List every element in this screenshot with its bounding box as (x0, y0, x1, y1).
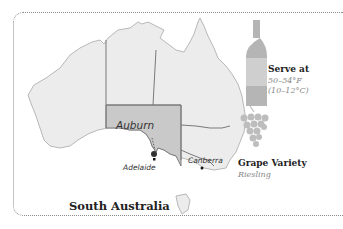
adelaide-marker (153, 158, 156, 161)
grape-heading: Grape Variety (238, 158, 307, 168)
city-label-canberra: Canberra (188, 156, 223, 165)
mainland-outline (28, 18, 246, 170)
city-label-auburn: Auburn (116, 119, 154, 131)
auburn-marker (151, 151, 157, 157)
canberra-marker (201, 167, 204, 170)
map-title: South Australia (69, 199, 170, 213)
serve-heading: Serve at (268, 64, 309, 74)
city-label-adelaide: Adelaide (123, 163, 156, 172)
south-australia-region (106, 105, 181, 166)
serve-temp-f: 50–54°F (268, 76, 302, 86)
grape-value: Riesling (238, 170, 271, 180)
tasmania-outline (176, 194, 190, 214)
wine-bottle-icon (246, 20, 267, 106)
serve-temp-c: (10–12°C) (268, 86, 309, 96)
